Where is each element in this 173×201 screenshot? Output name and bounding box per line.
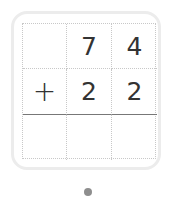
cell-tens-addend1: 7: [67, 24, 112, 69]
answer-cell-hundreds[interactable]: [23, 115, 67, 160]
cell-ones-addend2: 2: [112, 69, 157, 115]
page-indicator-dot[interactable]: [84, 188, 92, 196]
cell-tens-addend2: 2: [67, 69, 112, 115]
answer-cell-tens[interactable]: [67, 115, 112, 160]
plus-sign: +: [23, 69, 67, 115]
answer-cell-ones[interactable]: [112, 115, 157, 160]
addition-grid: 7 4 + 2 2: [22, 23, 156, 159]
cell-ones-addend1: 4: [112, 24, 157, 69]
cell-operator-row1: [23, 24, 67, 69]
